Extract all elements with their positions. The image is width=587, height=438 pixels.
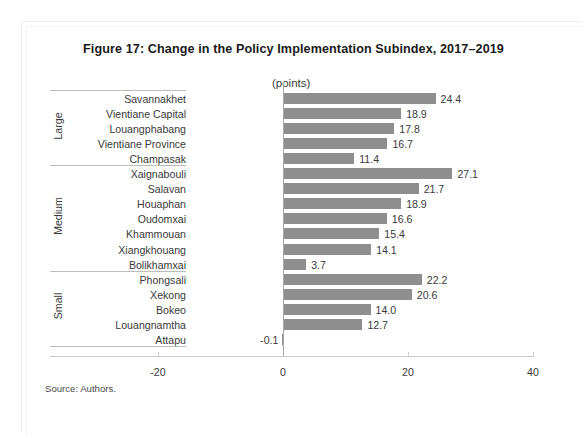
category-label: Xiangkhouang [0,244,186,256]
bar [283,153,354,164]
category-label: Champasak [0,153,186,165]
category-label-row: Vientiane Province [0,138,186,150]
bar-value-label: 16.6 [392,213,413,225]
bar [283,259,306,270]
category-label: Vientiane Province [0,138,186,150]
bar [283,274,422,285]
bar-value-label: 3.7 [311,259,326,271]
category-label: Savannakhet [0,93,186,105]
group-divider [50,271,186,272]
group-divider [50,346,186,347]
bar [283,198,401,209]
bar [283,183,419,194]
group-divider [50,165,186,166]
category-label-row: Savannakhet [0,93,186,105]
category-label-row: Phongsali [0,274,186,286]
bar [283,123,394,134]
bar-value-label: 12.7 [367,319,388,331]
category-label: Xaignabouli [0,168,186,180]
category-label-row: Louangphabang [0,123,186,135]
bar [283,93,436,104]
category-label: Attapu [0,334,186,346]
category-label: Khammouan [0,228,186,240]
source-note: Source: Authors. [45,383,116,394]
category-label-row: Xekong [0,289,186,301]
category-label-row: Attapu [0,334,186,346]
category-label: Louangnamtha [0,319,186,331]
category-label-row: Champasak [0,153,186,165]
bar [283,244,371,255]
category-label-row: Xiangkhouang [0,244,186,256]
category-label: Phongsali [0,274,186,286]
bar-value-label: 17.8 [399,123,420,135]
bar-value-label: 20.6 [417,289,438,301]
x-axis-tick-label: -20 [138,366,178,378]
group-name-large: Large [52,91,64,161]
zero-axis-line [283,82,284,356]
bar-value-label: 22.2 [427,274,448,286]
bar-value-label: 11.4 [359,153,379,165]
bar [283,319,362,330]
bar-value-label: 18.9 [406,198,427,210]
category-label: Oudomxai [0,213,186,225]
category-label: Vientiane Capital [0,108,186,120]
bar [283,304,371,315]
bar-value-label: 15.4 [384,228,405,240]
bar-value-label: -0.1 [252,334,278,346]
bar [283,213,387,224]
bar [283,168,452,179]
group-divider [50,90,186,91]
category-label-row: Xaignabouli [0,168,186,180]
category-label: Bokeo [0,304,186,316]
bar-chart-plot: Savannakhet24.4Vientiane Capital18.9Loua… [0,0,587,438]
group-name-medium: Medium [52,181,64,251]
x-axis-tick [158,352,159,356]
bar [283,228,379,239]
figure-page: Figure 17: Change in the Policy Implemen… [0,0,587,438]
bar [283,108,401,119]
category-label-row: Oudomxai [0,213,186,225]
category-label-row: Khammouan [0,228,186,240]
x-axis-tick [533,352,534,356]
bar-value-label: 27.1 [457,168,478,180]
bar-value-label: 24.4 [441,93,462,105]
x-axis-tick-label: 20 [388,366,428,378]
x-axis-tick-label: 0 [263,366,303,378]
x-axis-tick [408,352,409,356]
bar-value-label: 21.7 [424,183,445,195]
category-label-row: Houaphan [0,198,186,210]
category-label: Salavan [0,183,186,195]
category-label: Houaphan [0,198,186,210]
category-label: Xekong [0,289,186,301]
bar [283,138,387,149]
x-axis-tick-label: 40 [513,366,553,378]
category-label-row: Salavan [0,183,186,195]
bar-value-label: 16.7 [392,138,413,150]
bar [283,289,412,300]
x-axis-line [50,356,534,357]
group-name-small: Small [52,271,64,341]
category-label: Louangphabang [0,123,186,135]
category-label-row: Bokeo [0,304,186,316]
category-label-row: Louangnamtha [0,319,186,331]
bar-value-label: 14.0 [376,304,397,316]
category-label: Bolikhamxai [0,259,186,271]
bar-value-label: 14.1 [376,244,397,256]
bar-value-label: 18.9 [406,108,427,120]
category-label-row: Bolikhamxai [0,259,186,271]
category-label-row: Vientiane Capital [0,108,186,120]
